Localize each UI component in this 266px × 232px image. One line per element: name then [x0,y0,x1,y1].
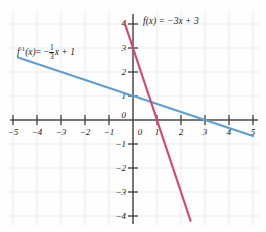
annotation-inverse-function: f-1(x)= −13x + 1 [17,44,75,60]
coordinate-plane: −5 −4 −3 −2 −1 0 1 2 3 4 5 4 3 2 1 0 −1 … [0,0,266,232]
xtick-label: −5 [8,127,19,137]
inverse-arg: (x) [25,47,36,57]
ytick-label: −2 [115,163,126,173]
ytick-label: 0 [122,110,127,120]
ytick-label: −1 [115,139,126,149]
ytick-label: −4 [115,211,126,221]
inverse-tail: x + 1 [55,47,75,57]
xtick-label: 2 [179,127,184,137]
xtick-label: 1 [155,127,160,137]
ytick-label: −3 [115,187,126,197]
ytick-label: 2 [122,67,127,77]
annotation-direct-function: f(x) = −3x + 3 [143,17,199,27]
inverse-equals: = − [36,47,49,57]
line-inverse-function [18,58,253,136]
xtick-label: −1 [104,127,115,137]
xtick-label: 3 [202,127,208,137]
fraction-denominator: 3 [49,53,54,61]
xtick-label: 0 [138,127,143,137]
inverse-fraction: 13 [49,44,54,60]
x-axis-tick-labels: −5 −4 −3 −2 −1 0 1 2 3 4 5 [8,127,256,137]
xtick-label: −3 [56,127,67,137]
ytick-label: 3 [121,43,127,53]
graph-figure: −5 −4 −3 −2 −1 0 1 2 3 4 5 4 3 2 1 0 −1 … [0,0,266,232]
xtick-label: −4 [32,127,43,137]
xtick-label: −2 [80,127,91,137]
